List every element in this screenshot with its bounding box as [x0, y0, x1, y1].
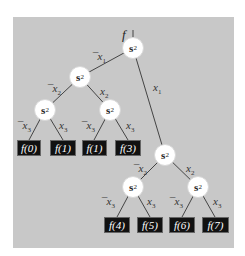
leaf-f5: f(5) [137, 217, 163, 233]
leaf-f1-b: f(1) [82, 140, 107, 156]
node-subscript: 2 [133, 183, 137, 191]
edge-label-r2a-right: x3 [147, 195, 155, 210]
node-right-level2: s2 [154, 144, 176, 166]
edge-label-l2b-left: ¯x3 [81, 119, 95, 134]
node-right-level3-b: s2 [187, 176, 209, 198]
edge-label-l1-right: x2 [100, 85, 108, 100]
edge-label-l2a-right: x3 [59, 119, 67, 134]
node-level2-b: s2 [99, 99, 121, 121]
node-right-level3-a: s2 [122, 176, 144, 198]
leaf-f7: f(7) [202, 217, 229, 233]
leaf-f1-a: f(1) [50, 140, 76, 156]
edge-label-l2b-right: x3 [126, 119, 134, 134]
leaf-f0: f(0) [17, 140, 41, 156]
edge-label-r2a-left: ¯x3 [101, 195, 115, 210]
node-subscript: 2 [198, 183, 202, 191]
edge-label-r1-right: x2 [186, 162, 194, 177]
edge-label-r1-left: ¯x2 [133, 162, 147, 177]
node-root: s2 [122, 37, 144, 59]
edge-label-r2b-right: x3 [213, 195, 221, 210]
node-subscript: 2 [110, 106, 114, 114]
leaf-f4: f(4) [104, 217, 130, 233]
node-level1-left: s2 [69, 66, 91, 88]
leaf-f6: f(6) [169, 217, 195, 233]
edge-label-root-left: ¯x1 [92, 50, 106, 65]
edge-label-root-right: x1 [153, 81, 161, 96]
node-subscript: 2 [165, 151, 169, 159]
edge-label-r2b-left: ¯x3 [169, 195, 183, 210]
leaf-f3: f(3) [115, 140, 141, 156]
node-subscript: 2 [80, 73, 84, 81]
node-subscript: 2 [45, 106, 49, 114]
node-level2-a: s2 [34, 99, 56, 121]
edge-label-l1-left: ¯x2 [47, 82, 61, 97]
node-subscript: 2 [133, 44, 137, 52]
edge-label-l2a-left: ¯x3 [17, 119, 31, 134]
